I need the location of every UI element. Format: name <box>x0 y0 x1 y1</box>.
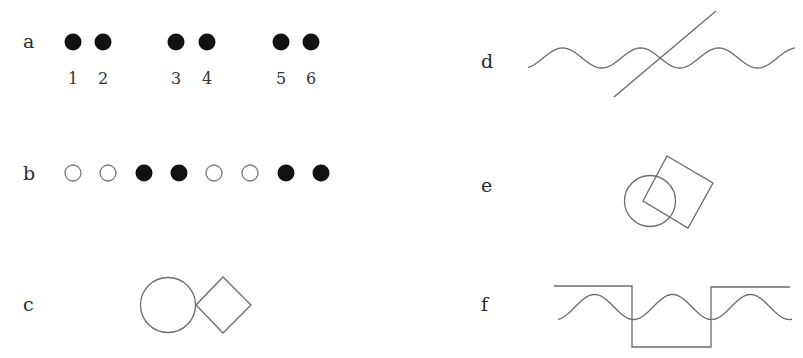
dot-number: 4 <box>202 69 212 88</box>
filled-dot <box>136 165 153 182</box>
sine-wave <box>528 48 795 68</box>
dot-group <box>65 165 330 182</box>
open-dot <box>242 165 258 181</box>
panel-b: b <box>23 162 330 184</box>
dot <box>273 34 290 51</box>
dot-number: 3 <box>171 69 181 88</box>
dot-number: 2 <box>98 69 108 88</box>
dot <box>65 34 82 51</box>
panel-label-d: d <box>481 50 493 72</box>
open-dot <box>100 165 116 181</box>
panel-label-a: a <box>23 30 34 52</box>
panel-a: a 123456 <box>23 30 320 88</box>
open-dot <box>65 165 81 181</box>
panel-f: f <box>481 286 792 347</box>
rotated-square-shape <box>643 156 713 228</box>
panel-d: d <box>481 11 795 97</box>
dot-number: 5 <box>276 69 286 88</box>
dot-number: 1 <box>68 69 78 88</box>
diagonal-line <box>614 11 716 97</box>
filled-dot <box>171 165 188 182</box>
dot <box>95 34 112 51</box>
dot <box>303 34 320 51</box>
panel-label-e: e <box>481 174 492 196</box>
panel-e: e <box>481 156 713 228</box>
circle-shape <box>141 278 196 333</box>
gestalt-diagram: a 123456 b c d e f <box>0 0 803 358</box>
dot-number: 6 <box>306 69 316 88</box>
open-dot <box>206 165 222 181</box>
panel-label-f: f <box>481 293 490 315</box>
diamond-shape <box>196 277 251 333</box>
dot-group <box>65 34 320 51</box>
dot <box>199 34 216 51</box>
panel-c: c <box>23 277 251 333</box>
sine-wave <box>558 295 792 320</box>
panel-label-c: c <box>23 293 34 315</box>
circle-shape <box>625 176 676 227</box>
number-labels: 123456 <box>68 69 316 88</box>
filled-dot <box>278 165 295 182</box>
panel-label-b: b <box>23 162 35 184</box>
filled-dot <box>313 165 330 182</box>
dot <box>168 34 185 51</box>
